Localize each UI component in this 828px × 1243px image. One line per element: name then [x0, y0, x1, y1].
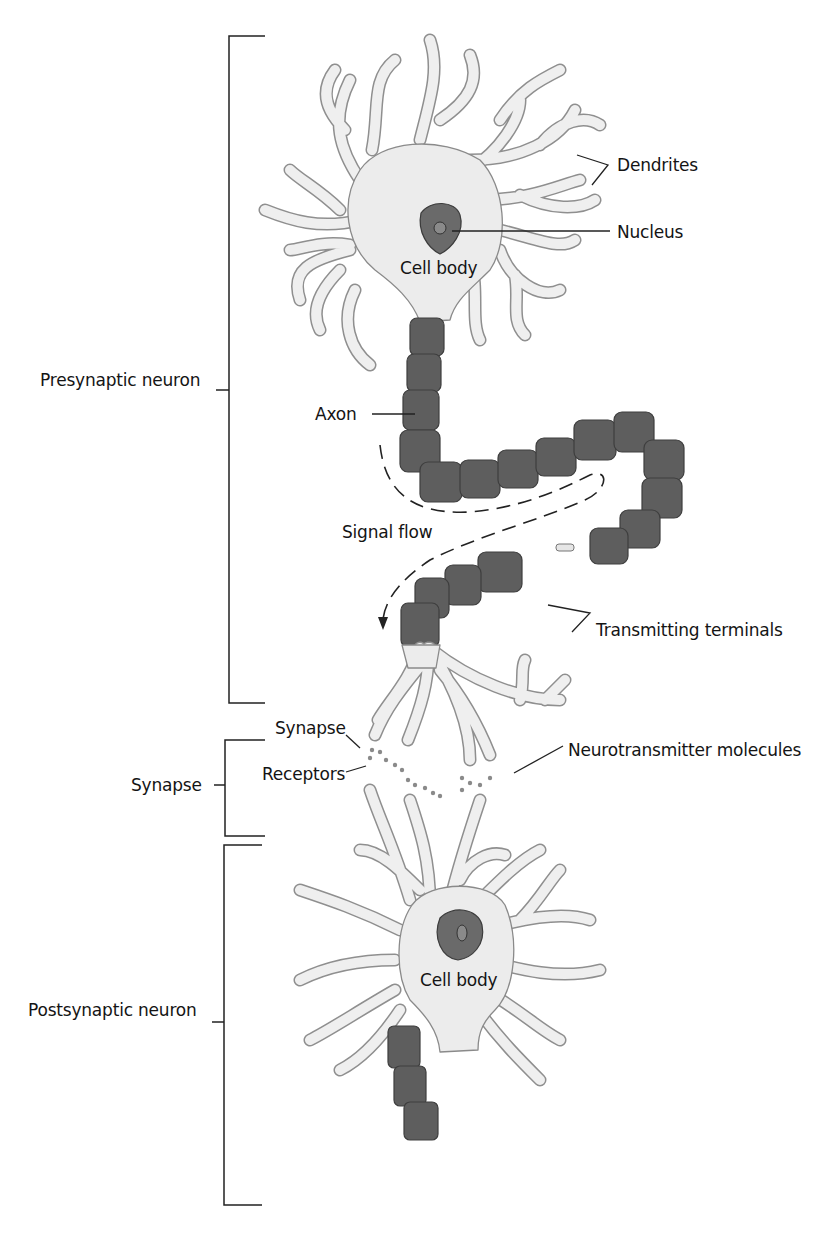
synapse-point-label: Synapse [275, 718, 346, 738]
postsynaptic-neuron-label: Postsynaptic neuron [28, 1000, 197, 1020]
dendrites-label: Dendrites [617, 155, 698, 175]
neurotransmitter-molecules-label: Neurotransmitter molecules [568, 740, 801, 760]
transmitting-terminals [375, 645, 565, 760]
bracket-synapse [214, 740, 265, 836]
nucleus-label: Nucleus [617, 222, 683, 242]
cell-body-label-bottom: Cell body [420, 970, 497, 990]
bracket-postsynaptic [212, 845, 262, 1205]
bracket-presynaptic [216, 36, 265, 703]
presynaptic-neuron-label: Presynaptic neuron [40, 370, 200, 390]
postsynaptic-axon [388, 1026, 438, 1140]
presynaptic-axon [400, 318, 684, 647]
neuron-diagram: Presynaptic neuron Synapse Postsynaptic … [0, 0, 828, 1243]
receptors-label: Receptors [262, 764, 345, 784]
cell-body-label-top: Cell body [400, 258, 477, 278]
synapse-bracket-label: Synapse [131, 775, 202, 795]
signal-flow-label: Signal flow [342, 522, 432, 542]
axon-label: Axon [315, 404, 357, 424]
transmitting-terminals-label: Transmitting terminals [596, 620, 783, 640]
